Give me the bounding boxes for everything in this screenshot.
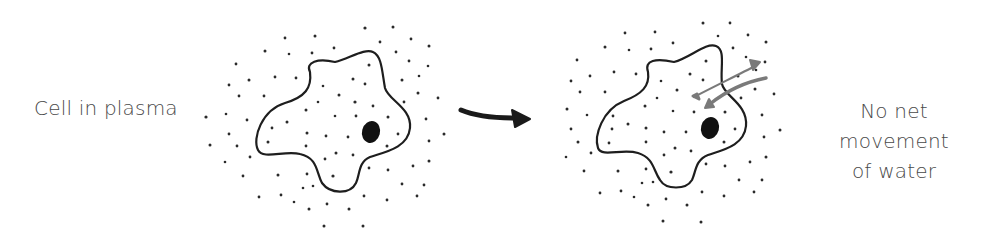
right-cell-nucleus (698, 115, 721, 141)
label-line-2: of water (806, 156, 982, 186)
label-line-1: No net movement (806, 96, 982, 156)
right-plasma-dots (565, 22, 782, 224)
left-cell-nucleus (359, 119, 382, 145)
right-cell-panel (565, 22, 782, 224)
water-in-arrow (705, 78, 766, 108)
process-arrow (461, 110, 530, 127)
label-no-net-movement: No net movement of water (806, 96, 982, 186)
left-cell-panel (204, 26, 445, 228)
